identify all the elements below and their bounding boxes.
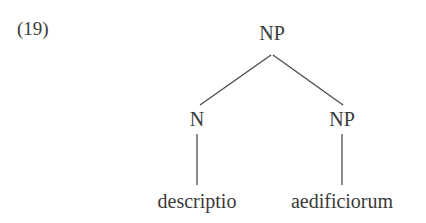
tree-leaf-left: descriptio [158,191,237,211]
branch-root-to-right [273,55,343,105]
branch-root-to-left [200,55,271,105]
tree-leaf-right: aedificiorum [291,191,393,211]
tree-node-right-child: NP [329,109,355,129]
syntax-tree-figure: (19) NP N NP descriptio aedificiorum [0,0,426,223]
tree-node-left-child: N [190,109,204,129]
tree-node-root: NP [259,23,285,43]
